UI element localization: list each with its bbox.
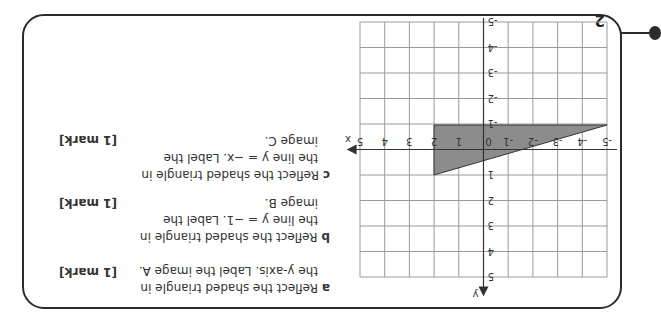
svg-text:-4: -4 [488, 42, 498, 53]
svg-text:-5: -5 [602, 136, 612, 147]
svg-text:3: 3 [488, 220, 494, 231]
svg-text:-2: -2 [528, 136, 538, 147]
svg-text:4: 4 [382, 136, 388, 147]
svg-text:-1: -1 [503, 136, 513, 147]
svg-text:y: y [472, 289, 478, 300]
svg-text:4: 4 [488, 246, 494, 257]
svg-text:1: 1 [488, 169, 494, 180]
mark-c: [1 mark] [59, 133, 117, 147]
svg-text:-4: -4 [577, 136, 587, 147]
mark-b: [1 mark] [59, 196, 117, 210]
mark-a: [1 mark] [59, 265, 117, 279]
svg-text:1: 1 [456, 136, 462, 147]
svg-text:5: 5 [357, 136, 363, 147]
svg-text:x: x [345, 134, 351, 145]
svg-text:3: 3 [406, 136, 412, 147]
part-b: bReflect the shaded triangle in the line… [140, 194, 330, 245]
svg-text:-2: -2 [488, 93, 498, 104]
svg-text:0: 0 [485, 136, 491, 147]
svg-text:2: 2 [431, 136, 437, 147]
svg-text:-3: -3 [553, 136, 563, 147]
part-c: cReflect the shaded triangle in the line… [141, 132, 330, 183]
svg-text:-1: -1 [488, 118, 498, 129]
part-a: aReflect the shaded triangle in the y-ax… [139, 262, 330, 296]
svg-text:-3: -3 [488, 67, 498, 78]
svg-text:2: 2 [488, 195, 494, 206]
svg-text:-5: -5 [488, 16, 498, 27]
svg-text:5: 5 [488, 271, 494, 282]
